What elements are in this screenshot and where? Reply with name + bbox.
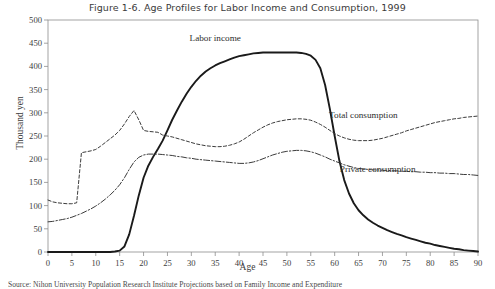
series-annotation-labor-income: Labor income	[190, 33, 241, 43]
y-tick-label: 50	[33, 224, 42, 234]
y-tick-label: 350	[29, 85, 42, 95]
plot-frame	[48, 20, 478, 252]
y-axis-title: Thousand yen	[15, 75, 25, 171]
series-annotation-total-consumption: Total consumption	[329, 110, 398, 120]
y-tick-label: 200	[29, 154, 42, 164]
y-tick-label: 400	[29, 61, 42, 71]
series-line-total-consumption	[48, 110, 478, 203]
y-tick-label: 250	[29, 131, 42, 141]
y-tick-label: 500	[29, 15, 42, 25]
y-tick-label: 450	[29, 38, 42, 48]
y-tick-label: 300	[29, 108, 42, 118]
y-axis: 050100150200250300350400450500	[29, 15, 48, 257]
series-annotation-private-consumption: Private consumption	[340, 164, 416, 174]
source-note: Source: Nihon University Population Rese…	[8, 280, 495, 289]
x-axis-title: Age	[0, 262, 495, 272]
series-line-private-consumption	[48, 150, 478, 221]
series-line-labor-income	[48, 52, 478, 252]
plot-area-wrapper: 0501001502002503003504004505000510152025…	[0, 0, 495, 275]
y-tick-label: 0	[38, 247, 42, 257]
line-chart-svg: 0501001502002503003504004505000510152025…	[0, 0, 495, 275]
y-tick-label: 150	[29, 177, 42, 187]
figure-container: Figure 1-6. Age Profiles for Labor Incom…	[0, 0, 495, 289]
y-tick-label: 100	[29, 201, 42, 211]
